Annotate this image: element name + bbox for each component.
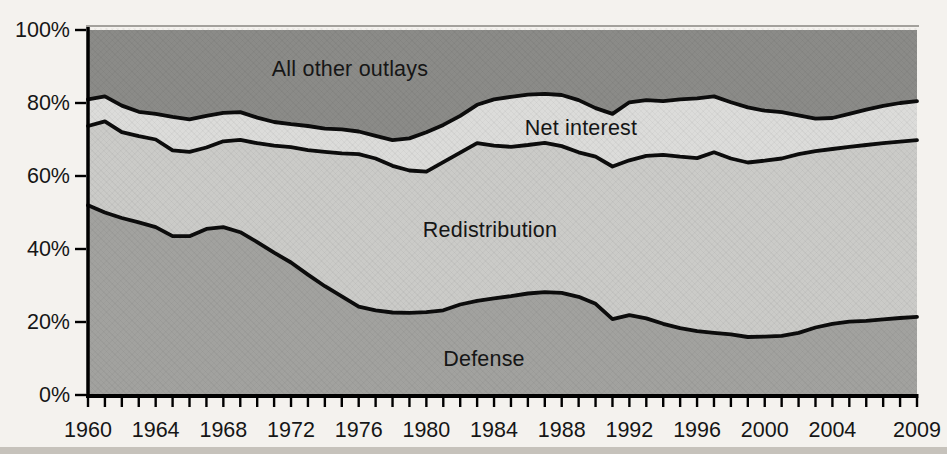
federal-outlays-stacked-area-chart: All other outlays Net interest Redistrib… xyxy=(0,0,947,454)
area-label-net-interest: Net interest xyxy=(525,116,637,141)
x-axis-ticks xyxy=(88,398,917,407)
y-tick-label-20: 20% xyxy=(27,309,70,335)
x-tick-label-1996: 1996 xyxy=(673,418,721,443)
x-tick-label-1968: 1968 xyxy=(199,418,247,443)
x-tick-label-1972: 1972 xyxy=(267,418,315,443)
page-bottom-strip xyxy=(0,447,947,454)
x-tick-label-1984: 1984 xyxy=(470,418,518,443)
x-tick-label-1988: 1988 xyxy=(538,418,586,443)
x-tick-label-2009: 2009 xyxy=(893,418,941,443)
y-tick-label-60: 60% xyxy=(27,163,70,189)
y-axis-labels: 0%20%40%60%80%100% xyxy=(0,0,70,454)
x-tick-label-1980: 1980 xyxy=(402,418,450,443)
x-tick-label-1992: 1992 xyxy=(605,418,653,443)
y-tick-label-0: 0% xyxy=(39,382,70,408)
y-tick-label-40: 40% xyxy=(27,236,70,262)
x-tick-label-2004: 2004 xyxy=(808,418,856,443)
x-tick-label-1964: 1964 xyxy=(132,418,180,443)
y-tick-label-100: 100% xyxy=(15,17,70,43)
y-axis-ticks xyxy=(75,30,86,395)
x-axis-labels: 1960196419681972197619801984198819921996… xyxy=(0,418,947,446)
area-label-redistribution: Redistribution xyxy=(423,218,557,243)
area-label-all-other-outlays: All other outlays xyxy=(272,57,428,82)
y-tick-label-80: 80% xyxy=(27,90,70,116)
x-tick-label-2000: 2000 xyxy=(741,418,789,443)
area-label-defense: Defense xyxy=(443,347,524,372)
x-tick-label-1976: 1976 xyxy=(335,418,383,443)
x-tick-label-1960: 1960 xyxy=(64,418,112,443)
